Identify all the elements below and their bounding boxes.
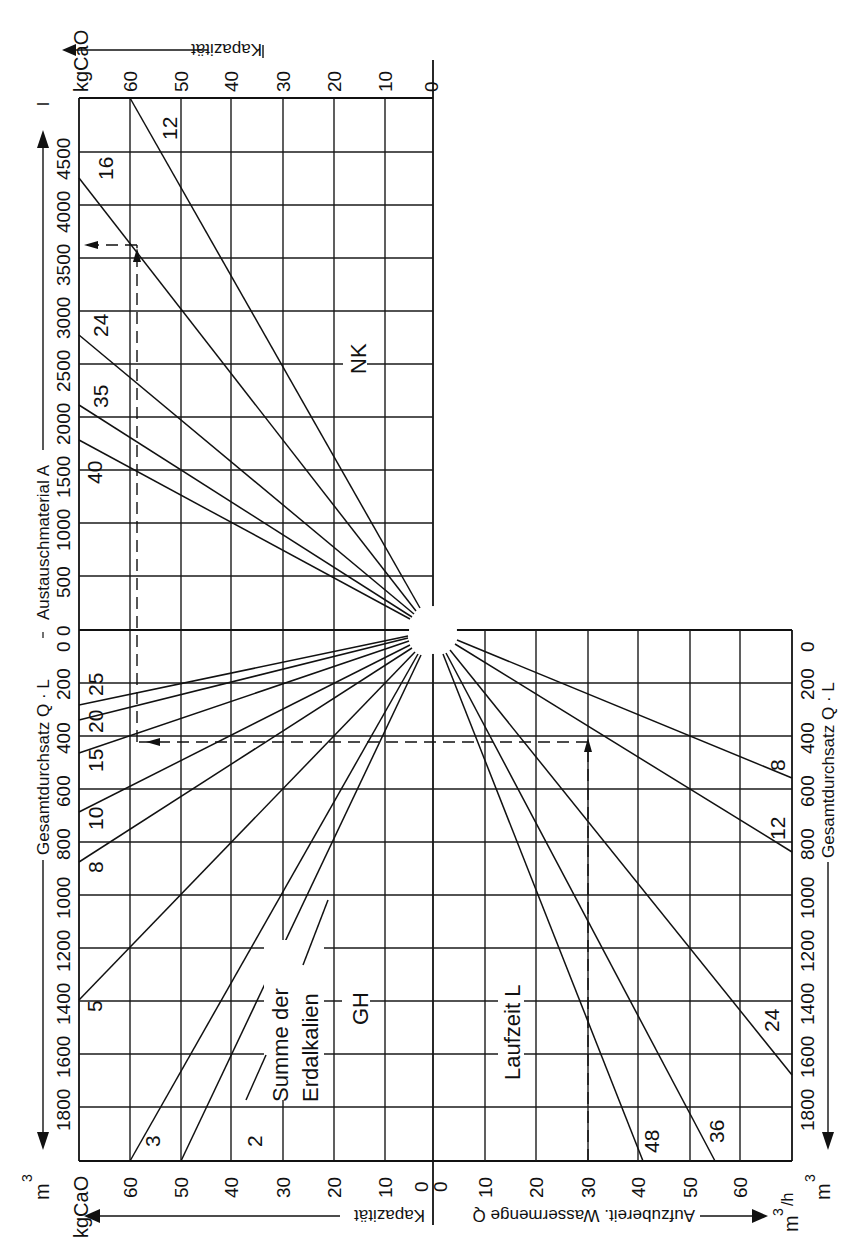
- arrow-left-icon: [62, 44, 76, 56]
- svg-text:1400: 1400: [53, 983, 74, 1025]
- svg-text:30: 30: [578, 1177, 599, 1198]
- svg-text:1800: 1800: [53, 1089, 74, 1131]
- svg-text:m: m: [812, 1183, 834, 1200]
- top-kapazitaet-ticks: 60 50 40 30 20 10 0: [120, 71, 442, 92]
- summe-label-1: Summe der: [268, 988, 293, 1102]
- svg-text:10: 10: [84, 807, 107, 830]
- svg-text:48: 48: [640, 1130, 663, 1153]
- svg-text:3: 3: [141, 1135, 164, 1147]
- svg-text:3500: 3500: [53, 244, 74, 286]
- gh-curve-labels: 25 20 15 10 8 5 3 2: [83, 673, 266, 1147]
- svg-text:200: 200: [797, 668, 818, 700]
- gh-region-label: GH: [348, 992, 373, 1025]
- svg-text:3: 3: [19, 1174, 35, 1182]
- svg-text:20: 20: [526, 1177, 547, 1198]
- svg-text:30: 30: [273, 71, 294, 92]
- svg-text:4500: 4500: [53, 138, 74, 180]
- svg-text:40: 40: [83, 461, 106, 484]
- svg-text:m: m: [780, 1215, 802, 1232]
- svg-text:0: 0: [421, 81, 442, 92]
- svg-text:1500: 1500: [53, 456, 74, 498]
- svg-text:500: 500: [53, 566, 74, 598]
- svg-text:Kapazität: Kapazität: [191, 40, 262, 59]
- svg-text:20: 20: [84, 710, 107, 733]
- svg-text:60: 60: [120, 71, 141, 92]
- svg-text:12: 12: [158, 117, 181, 140]
- svg-text:10: 10: [375, 1177, 396, 1198]
- svg-text:40: 40: [221, 71, 242, 92]
- bottom-kapazitaet-ticks: 60 50 40 30 20 10 0: [120, 1177, 432, 1198]
- svg-text:/h: /h: [779, 1193, 796, 1206]
- nk-region-label: NK: [346, 343, 371, 374]
- svg-text:3000: 3000: [53, 297, 74, 339]
- svg-text:1000: 1000: [53, 877, 74, 919]
- svg-text:40: 40: [628, 1177, 649, 1198]
- svg-text:12: 12: [766, 817, 789, 840]
- svg-text:5: 5: [83, 1000, 106, 1012]
- svg-text:8: 8: [766, 759, 789, 771]
- svg-text:25: 25: [84, 673, 107, 696]
- svg-text:2000: 2000: [53, 403, 74, 445]
- svg-text:50: 50: [171, 1177, 192, 1198]
- kgcao-top-label: kgCaO: [70, 30, 92, 92]
- kgcao-bottom-label: kgCaO: [70, 1176, 92, 1238]
- svg-text:600: 600: [797, 775, 818, 807]
- svg-text:1600: 1600: [53, 1036, 74, 1078]
- svg-text:Gesamtdurchsatz Q · L: Gesamtdurchsatz Q · L: [819, 682, 838, 858]
- durchsatz-right-ticks: 0 200 400 600 800 1000 1200 1400 1600 18…: [797, 641, 818, 1131]
- lz-curve-labels: 8 12 24 36 48: [640, 759, 789, 1153]
- svg-text:0: 0: [430, 1181, 451, 1192]
- nk-curve-labels: 12 16 24 35 40: [83, 117, 181, 484]
- svg-text:4000: 4000: [53, 191, 74, 233]
- svg-text:400: 400: [797, 722, 818, 754]
- arrow-left-icon: [146, 738, 160, 746]
- svg-text:20: 20: [324, 71, 345, 92]
- svg-text:36: 36: [705, 1120, 728, 1143]
- svg-text:0: 0: [411, 1181, 432, 1192]
- arrow-down-icon: [37, 1132, 49, 1150]
- summe-label-2: Erdalkalien: [298, 993, 323, 1102]
- svg-text:3: 3: [770, 1208, 786, 1216]
- svg-text:1400: 1400: [797, 983, 818, 1025]
- svg-text:Kapazität: Kapazität: [354, 1206, 425, 1225]
- svg-text:10: 10: [375, 71, 396, 92]
- svg-text:15: 15: [84, 749, 107, 772]
- arrow-up-icon: [584, 738, 592, 752]
- svg-text:20: 20: [324, 1177, 345, 1198]
- svg-text:8: 8: [84, 861, 107, 873]
- austausch-ticks: 0 500 1000 1500 2000 2500 3000 3500 4000…: [53, 138, 74, 636]
- austausch-unit: l: [34, 102, 53, 106]
- laufzeit-region-label: Laufzeit L: [500, 985, 525, 1080]
- svg-text:24: 24: [760, 1008, 783, 1032]
- m3-left-label: m: [31, 1183, 53, 1200]
- top-kapazitaet-axis: Kapazität: [62, 40, 263, 59]
- svg-text:200: 200: [53, 668, 74, 700]
- svg-text:800: 800: [797, 828, 818, 860]
- svg-text:40: 40: [221, 1177, 242, 1198]
- svg-text:800: 800: [53, 828, 74, 860]
- svg-text:1200: 1200: [797, 930, 818, 972]
- arrow-down-icon: [822, 1132, 834, 1150]
- svg-text:24: 24: [89, 313, 112, 337]
- nomogram-chart: 60 50 40 30 20 10 0 kgCaO Kapazität 0 50…: [0, 0, 865, 1249]
- wassermenge-ticks: 0 10 20 30 40 50 60: [430, 1177, 751, 1198]
- arrow-right-icon: [752, 1209, 768, 1223]
- svg-text:1600: 1600: [797, 1036, 818, 1078]
- svg-text:0: 0: [53, 641, 74, 652]
- svg-text:600: 600: [53, 775, 74, 807]
- bottom-kapazitaet-axis: Kapazität: [84, 1206, 425, 1225]
- svg-text:16: 16: [94, 157, 117, 180]
- arrow-left-icon: [84, 241, 98, 249]
- svg-text:2: 2: [243, 1135, 266, 1147]
- svg-text:400: 400: [53, 722, 74, 754]
- svg-text:1000: 1000: [797, 877, 818, 919]
- svg-text:10: 10: [475, 1177, 496, 1198]
- svg-text:1800: 1800: [797, 1089, 818, 1131]
- durchsatz-left-axis: Gesamtdurchsatz Q · L m 3: [19, 632, 53, 1200]
- svg-text:Gesamtdurchsatz Q · L: Gesamtdurchsatz Q · L: [34, 679, 53, 855]
- svg-text:3: 3: [802, 1174, 818, 1182]
- svg-text:Aufzubereit. Wassermenge Q: Aufzubereit. Wassermenge Q: [473, 1206, 695, 1225]
- center-hub: [409, 606, 457, 654]
- svg-text:1000: 1000: [53, 509, 74, 551]
- svg-text:1200: 1200: [53, 930, 74, 972]
